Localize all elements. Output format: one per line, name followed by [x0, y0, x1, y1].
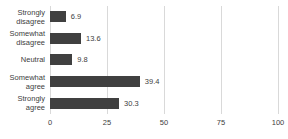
bar	[50, 76, 140, 87]
value-label: 6.9	[71, 12, 81, 21]
category-row: Strongly disagree	[0, 6, 45, 28]
x-tick-label: 0	[48, 118, 52, 127]
value-label: 39.4	[145, 77, 160, 86]
value-label: 13.6	[86, 34, 101, 43]
bar-row: 39.4	[50, 71, 278, 93]
value-label: 9.8	[77, 55, 87, 64]
category-row: Somewhat agree	[0, 71, 45, 93]
bar-row: 30.3	[50, 92, 278, 114]
bar-row: 9.8	[50, 49, 278, 71]
plot-area: 6.913.69.839.430.3	[50, 6, 278, 114]
category-label: Somewhat agree	[0, 73, 45, 91]
category-label: Neutral	[21, 55, 45, 64]
value-label: 30.3	[124, 99, 139, 108]
category-axis: Strongly disagreeSomewhat disagreeNeutra…	[0, 6, 45, 114]
bar-row: 6.9	[50, 6, 278, 28]
category-label: Somewhat disagree	[0, 29, 45, 47]
bar	[50, 98, 119, 109]
x-tick-label: 25	[103, 118, 111, 127]
gridline	[278, 6, 279, 114]
category-row: Somewhat disagree	[0, 28, 45, 50]
category-row: Strongly agree	[0, 92, 45, 114]
category-label: Strongly agree	[0, 94, 45, 112]
x-tick-label: 100	[272, 118, 285, 127]
category-row: Neutral	[0, 49, 45, 71]
category-label: Strongly disagree	[0, 8, 45, 26]
x-axis: 0255075100	[50, 118, 278, 130]
bar	[50, 11, 66, 22]
bar-rows: 6.913.69.839.430.3	[50, 6, 278, 114]
x-tick-label: 50	[160, 118, 168, 127]
bar	[50, 54, 72, 65]
likert-bar-chart: Strongly disagreeSomewhat disagreeNeutra…	[0, 0, 288, 139]
bar-row: 13.6	[50, 28, 278, 50]
bar	[50, 33, 81, 44]
x-tick-label: 75	[217, 118, 225, 127]
